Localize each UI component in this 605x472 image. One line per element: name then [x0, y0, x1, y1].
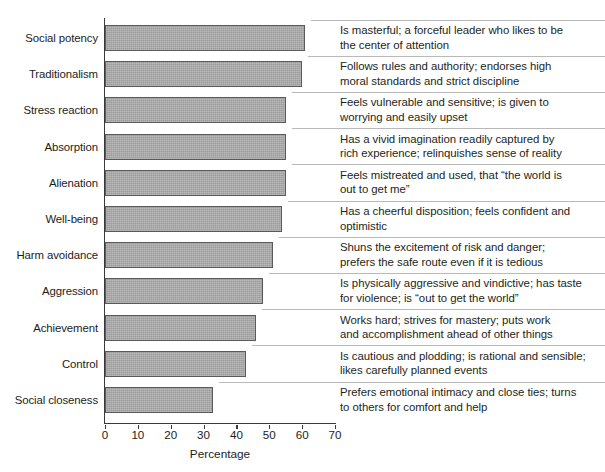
annotation-rule	[219, 382, 605, 383]
bar	[105, 242, 273, 268]
annotation-rule	[279, 237, 605, 238]
annotation-line: Is cautious and plodding; is rational an…	[340, 349, 599, 364]
chart-row: AchievementWorks hard; strives for maste…	[0, 310, 605, 346]
bar-texture	[106, 207, 281, 231]
annotation-line: Follows rules and authority; endorses hi…	[340, 60, 599, 75]
x-axis-tick-label: 10	[131, 428, 144, 441]
category-label: Traditionalism	[29, 68, 98, 80]
annotation-line: likes carefully planned events	[340, 364, 599, 379]
personality-traits-bar-chart: Social potencyIs masterful; a forceful l…	[0, 0, 605, 472]
bar	[105, 61, 302, 87]
chart-row: Well-beingHas a cheerful disposition; fe…	[0, 201, 605, 237]
annotation-text: Follows rules and authority; endorses hi…	[340, 60, 599, 89]
chart-row: Stress reactionFeels vulnerable and sens…	[0, 92, 605, 128]
category-label: Social potency	[25, 32, 98, 44]
bar-texture	[106, 352, 245, 376]
chart-row: Social potencyIs masterful; a forceful l…	[0, 20, 605, 56]
annotation-rule	[292, 128, 605, 129]
category-label: Alienation	[49, 177, 98, 189]
category-label: Harm avoidance	[16, 249, 98, 261]
annotation-text: Has a cheerful disposition; feels confid…	[340, 205, 599, 234]
bar-texture	[106, 388, 212, 412]
chart-row: ControlIs cautious and plodding; is rati…	[0, 346, 605, 382]
category-label: Absorption	[45, 141, 98, 153]
annotation-line: Feels mistreated and used, that “the wor…	[340, 168, 599, 183]
chart-row: AbsorptionHas a vivid imagination readil…	[0, 129, 605, 165]
bar-texture	[106, 135, 285, 159]
bar-texture	[106, 171, 285, 195]
category-label: Achievement	[33, 322, 98, 334]
annotation-line: to others for comfort and help	[340, 400, 599, 415]
bar	[105, 315, 256, 341]
x-axis-tick-label: 70	[329, 428, 342, 441]
category-label: Social closeness	[15, 394, 98, 406]
annotation-line: Is masterful; a forceful leader who like…	[340, 24, 599, 39]
chart-row: Harm avoidanceShuns the excitement of ri…	[0, 237, 605, 273]
chart-row: AggressionIs physically aggressive and v…	[0, 273, 605, 309]
bar	[105, 387, 213, 413]
x-axis-tick-label: 40	[230, 428, 243, 441]
x-axis-title: Percentage	[190, 447, 250, 461]
annotation-rule	[269, 273, 605, 274]
annotation-line: the center of attention	[340, 38, 599, 53]
annotation-line: Shuns the excitement of risk and danger;	[340, 241, 599, 256]
x-axis-tick-label: 20	[164, 428, 177, 441]
bar-texture	[106, 26, 304, 50]
annotation-rule	[262, 309, 605, 310]
annotation-rule	[292, 92, 605, 93]
bar	[105, 25, 305, 51]
annotation-line: for violence; is “out to get the world”	[340, 291, 599, 306]
annotation-text: Has a vivid imagination readily captured…	[340, 132, 599, 161]
annotation-text: Is cautious and plodding; is rational an…	[340, 349, 599, 378]
bar-texture	[106, 98, 285, 122]
x-axis-tick-label: 60	[296, 428, 309, 441]
chart-row: AlienationFeels mistreated and used, tha…	[0, 165, 605, 201]
chart-row: TraditionalismFollows rules and authorit…	[0, 56, 605, 92]
bar	[105, 97, 286, 123]
annotation-text: Prefers emotional intimacy and close tie…	[340, 386, 599, 415]
annotation-line: and accomplishment ahead of other things	[340, 328, 599, 343]
bar	[105, 206, 282, 232]
bar-texture	[106, 279, 262, 303]
x-axis-tick-label: 0	[102, 428, 108, 441]
annotation-line: moral standards and strict discipline	[340, 74, 599, 89]
annotation-line: Feels vulnerable and sensitive; is given…	[340, 96, 599, 111]
x-axis-tick-label: 50	[263, 428, 276, 441]
annotation-line: Is physically aggressive and vindictive;…	[340, 277, 599, 292]
plot-area: Social potencyIs masterful; a forceful l…	[0, 0, 605, 472]
annotation-text: Feels mistreated and used, that “the wor…	[340, 168, 599, 197]
annotation-line: worrying and easily upset	[340, 110, 599, 125]
annotation-rule	[311, 20, 605, 21]
bar	[105, 278, 263, 304]
x-axis-tick-label: 30	[197, 428, 210, 441]
annotation-line: Has a vivid imagination readily captured…	[340, 132, 599, 147]
annotation-rule	[292, 164, 605, 165]
bar-texture	[106, 243, 272, 267]
annotation-line: Has a cheerful disposition; feels confid…	[340, 205, 599, 220]
annotation-text: Is physically aggressive and vindictive;…	[340, 277, 599, 306]
category-label: Stress reaction	[24, 104, 98, 116]
annotation-text: Is masterful; a forceful leader who like…	[340, 24, 599, 53]
bar-texture	[106, 316, 255, 340]
annotation-rule	[252, 345, 605, 346]
annotation-line: Prefers emotional intimacy and close tie…	[340, 386, 599, 401]
annotation-text: Works hard; strives for mastery; puts wo…	[340, 313, 599, 342]
annotation-text: Feels vulnerable and sensitive; is given…	[340, 96, 599, 125]
annotation-line: optimistic	[340, 219, 599, 234]
bar	[105, 351, 246, 377]
category-label: Aggression	[42, 285, 98, 297]
annotation-line: prefers the safe route even if it is ted…	[340, 255, 599, 270]
annotation-line: Works hard; strives for mastery; puts wo…	[340, 313, 599, 328]
annotation-rule	[308, 56, 605, 57]
category-label: Well-being	[45, 213, 98, 225]
category-label: Control	[62, 358, 98, 370]
annotation-line: rich experience; relinquishes sense of r…	[340, 147, 599, 162]
annotation-text: Shuns the excitement of risk and danger;…	[340, 241, 599, 270]
chart-row: Social closenessPrefers emotional intima…	[0, 382, 605, 418]
bar-texture	[106, 62, 301, 86]
annotation-rule	[288, 201, 605, 202]
bar	[105, 170, 286, 196]
bar	[105, 134, 286, 160]
annotation-line: out to get me”	[340, 183, 599, 198]
